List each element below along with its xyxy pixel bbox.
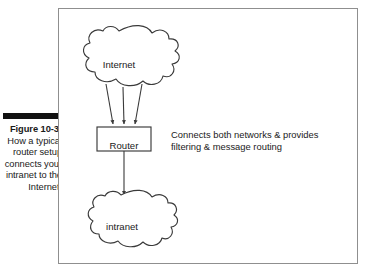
connector-arrow-right [135,84,142,124]
network-diagram: Internet Router intranet Connects both n… [59,9,359,265]
internet-to-router-connectors [106,84,142,124]
caption-body-text: How a typical router setup connects your… [5,136,62,192]
caption-rule-divider [3,113,63,119]
figure-frame: Internet Router intranet Connects both n… [58,8,358,264]
intranet-cloud-label: intranet [84,221,160,232]
figure-caption: Figure 10-3: How a typical router setup … [0,113,64,194]
internet-cloud-shape [83,26,179,86]
router-annotation: Connects both networks & provides filter… [171,129,351,154]
router-annotation-line-1: Connects both networks & provides [171,129,351,141]
internet-cloud-label: Internet [81,59,157,70]
connector-arrow-left [106,84,113,124]
figure-number-label: Figure 10-3: [10,124,62,134]
intranet-cloud-shape [88,190,177,246]
caption-text: Figure 10-3: How a typical router setup … [0,124,62,194]
connector-arrow-center [123,87,124,124]
router-annotation-line-2: filtering & message routing [171,141,351,153]
router-box-label: Router [97,140,151,151]
